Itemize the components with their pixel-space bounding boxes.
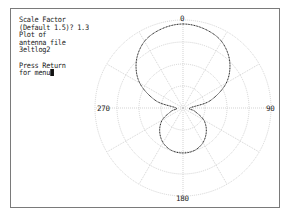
angle-label-0: 0: [180, 14, 184, 23]
grid-spoke: [107, 64, 183, 108]
polar-grid: [95, 20, 271, 196]
grid-spoke: [139, 32, 183, 108]
polar-plot: [0, 0, 291, 215]
grid-spoke: [107, 108, 183, 152]
grid-spoke: [183, 64, 259, 108]
grid-spoke: [183, 108, 259, 152]
angle-label-270: 270: [97, 104, 110, 113]
grid-spoke: [183, 32, 227, 108]
grid-spoke: [183, 108, 227, 184]
grid-spoke: [139, 108, 183, 184]
terminal-screen: Scale Factor (Default 1.5)? 1.3 Plot of …: [0, 0, 291, 215]
angle-label-90: 90: [266, 104, 274, 113]
angle-label-180: 180: [176, 194, 189, 203]
